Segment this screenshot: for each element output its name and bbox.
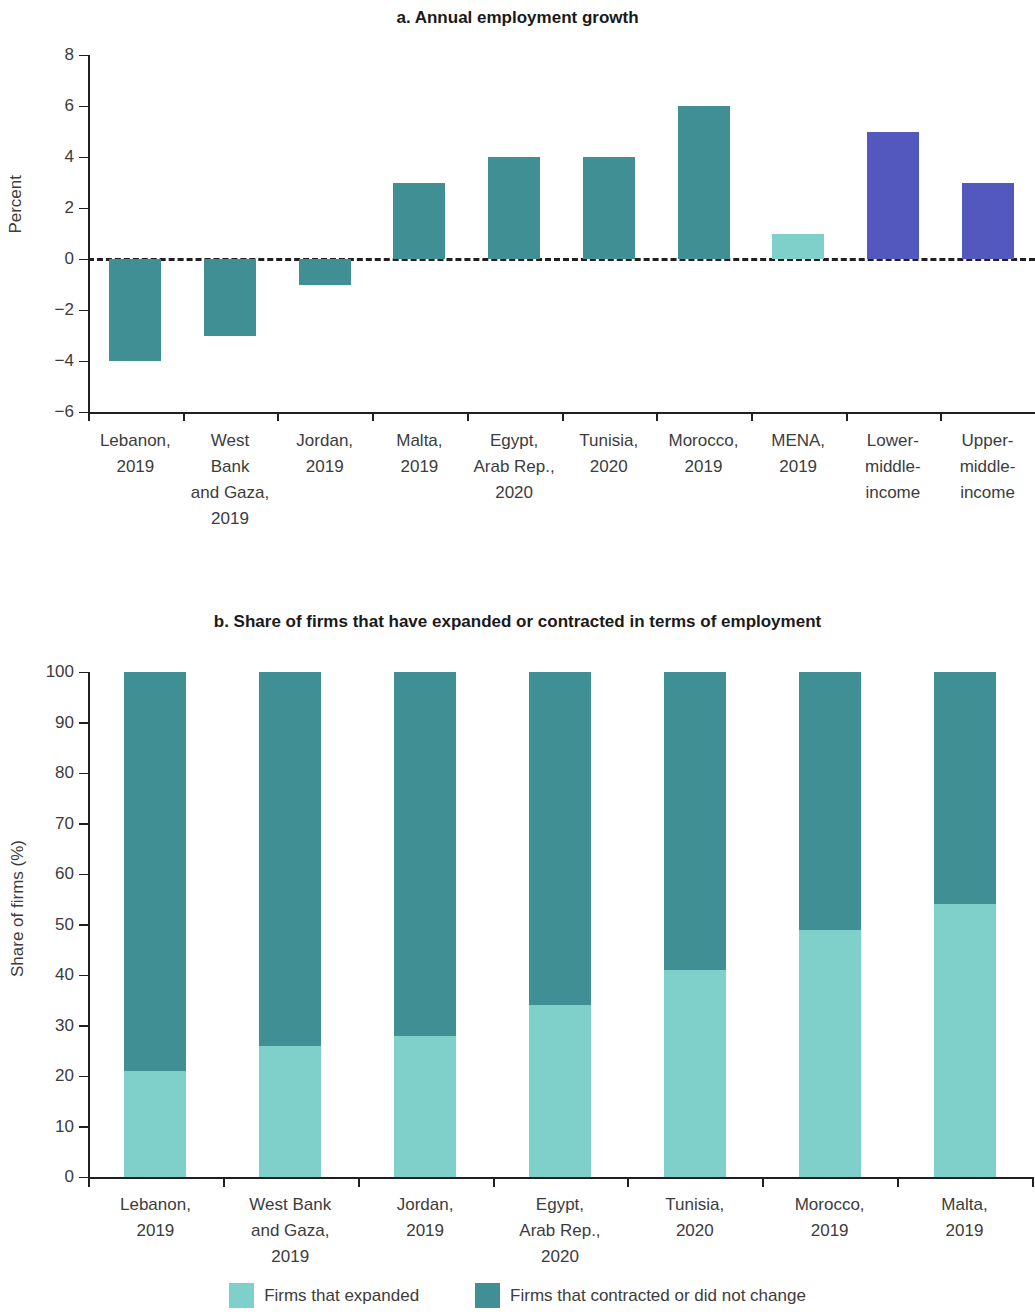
chart-a-bar [109,259,161,361]
chart-b-x-tick-mark [1032,1177,1034,1187]
chart-a-x-tick-mark [88,412,90,421]
chart-b-x-tick-mark [88,1177,90,1187]
chart-b-y-tick-label: 90 [18,713,74,733]
chart-b-y-tick-mark [79,874,88,876]
chart-b-y-tick-mark [79,1177,88,1179]
chart-b-y-tick-label: 20 [18,1066,74,1086]
chart-b-y-tick-label: 60 [18,864,74,884]
chart-b-x-label: Morocco, 2019 [762,1192,897,1244]
chart-a-y-axis-line [88,55,90,412]
chart-a-y-tick-mark [79,310,88,312]
chart-b-x-label: Lebanon, 2019 [88,1192,223,1244]
chart-b-y-tick-label: 80 [18,763,74,783]
chart-a-x-tick-mark [846,412,848,421]
chart-b-y-tick-mark [79,1025,88,1027]
chart-b-legend-label: Firms that expanded [264,1286,419,1306]
chart-b-y-axis-label: Share of firms (%) [8,840,28,977]
chart-a-y-tick-label: 2 [26,198,74,218]
chart-b-y-tick-mark [79,1126,88,1128]
chart-b-y-tick-mark [79,773,88,775]
chart-a-x-axis-labels: Lebanon, 2019West Bank and Gaza, 2019Jor… [88,428,1035,532]
chart-b-y-tick-label: 0 [18,1167,74,1187]
legend-swatch-icon [475,1283,500,1308]
chart-b-segment-contracted [394,672,456,1036]
chart-b-stacked-bar [259,672,321,1177]
chart-a-bar [393,183,445,260]
chart-a-x-tick-mark [183,412,185,421]
chart-a-x-label: Lebanon, 2019 [88,428,183,480]
chart-b-segment-contracted [934,672,996,904]
chart-a-y-tick-label: −6 [26,402,74,422]
chart-a-y-axis-label: Percent [6,175,26,234]
chart-b-segment-contracted [529,672,591,1005]
chart-a-x-tick-mark [372,412,374,421]
chart-b-x-label: Jordan, 2019 [358,1192,493,1244]
chart-b-x-axis-labels: Lebanon, 2019West Bank and Gaza, 2019Jor… [88,1192,1032,1270]
chart-b-segment-contracted [124,672,186,1071]
chart-b-y-tick-label: 70 [18,814,74,834]
chart-a-x-tick-mark [940,412,942,421]
chart-b-segment-expanded [394,1036,456,1177]
chart-a-x-label: Morocco, 2019 [656,428,751,480]
chart-a-x-label: Malta, 2019 [372,428,467,480]
chart-b-legend: Firms that expandedFirms that contracted… [0,1283,1035,1308]
chart-a-bar [299,259,351,285]
chart-a-y-tick-mark [79,208,88,210]
chart-b-stacked-bar [934,672,996,1177]
chart-b-segment-contracted [259,672,321,1046]
chart-b-x-tick-mark [493,1177,495,1187]
chart-b-segment-expanded [934,904,996,1177]
chart-b-y-tick-mark [79,722,88,724]
chart-b-y-tick-mark [79,975,88,977]
chart-b-stacked-bar [799,672,861,1177]
chart-a-bar [488,157,540,259]
chart-b-segment-contracted [799,672,861,930]
chart-a-x-tick-mark [751,412,753,421]
chart-b-segment-contracted [664,672,726,970]
chart-b-x-axis-line [88,1177,1032,1179]
chart-b-legend-item: Firms that expanded [229,1283,419,1308]
chart-a-x-label: Upper- middle- income [940,428,1035,506]
chart-a-x-label: Tunisia, 2020 [561,428,656,480]
chart-b-x-tick-mark [897,1177,899,1187]
chart-a-y-tick-mark [79,106,88,108]
chart-a-bar [772,234,824,260]
chart-a-y-tick-label: 6 [26,96,74,116]
chart-a-x-label: Lower- middle- income [846,428,941,506]
panel-a-title: a. Annual employment growth [0,8,1035,28]
chart-a-y-tick-label: 4 [26,147,74,167]
chart-a-x-label: MENA, 2019 [751,428,846,480]
chart-a-x-tick-mark [467,412,469,421]
chart-a-x-tick-mark [562,412,564,421]
chart-b-x-tick-mark [762,1177,764,1187]
chart-a-bar [867,132,919,260]
chart-b-segment-expanded [529,1005,591,1177]
panel-b-title: b. Share of firms that have expanded or … [0,612,1035,632]
chart-a-bar [583,157,635,259]
chart-a-y-tick-label: 0 [26,249,74,269]
chart-b-x-tick-mark [223,1177,225,1187]
chart-a-bar [962,183,1014,260]
chart-b-stacked-bar [124,672,186,1177]
chart-b-y-tick-mark [79,924,88,926]
chart-b-x-label: Egypt, Arab Rep., 2020 [493,1192,628,1270]
chart-b-x-label: Malta, 2019 [897,1192,1032,1244]
legend-swatch-icon [229,1283,254,1308]
chart-a-x-label: Egypt, Arab Rep., 2020 [467,428,562,506]
chart-b-x-label: West Bank and Gaza, 2019 [223,1192,358,1270]
chart-a-bar [678,106,730,259]
chart-b-x-tick-mark [627,1177,629,1187]
chart-b-y-tick-label: 40 [18,965,74,985]
chart-a-bar [204,259,256,336]
chart-b-stacked-bar [394,672,456,1177]
chart-a-x-label: Jordan, 2019 [277,428,372,480]
chart-a-x-label: West Bank and Gaza, 2019 [183,428,278,532]
chart-b-segment-expanded [664,970,726,1177]
chart-a-y-tick-mark [79,259,88,261]
chart-b-y-tick-label: 10 [18,1117,74,1137]
chart-a-y-tick-mark [79,361,88,363]
chart-b-segment-expanded [124,1071,186,1177]
chart-b-y-tick-mark [79,672,88,674]
chart-b-x-tick-mark [358,1177,360,1187]
chart-a-x-tick-mark [277,412,279,421]
